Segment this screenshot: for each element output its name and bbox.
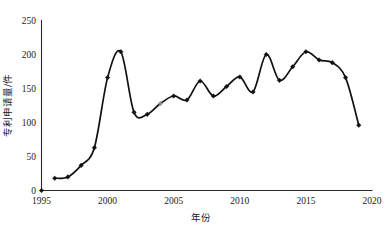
data-point-marker [171,94,176,99]
x-tick-label: 2005 [164,196,183,206]
y-tick-label: 150 [22,84,37,94]
data-series-line [55,51,359,179]
y-axis-tick-labels: 050100150200250 [22,16,37,196]
x-axis-tick-labels: 199520002005201020152020 [32,196,382,206]
x-tick-label: 2000 [98,196,117,206]
line-chart-plot: 050100150200250 199520002005201020152020… [0,0,390,239]
x-tick-label: 2010 [230,196,249,206]
data-point-marker [92,145,97,150]
x-axis-title: 年份 [191,212,211,223]
x-tick-label: 2015 [296,196,315,206]
data-point-marker [356,123,361,128]
data-point-marker [105,75,110,80]
y-tick-label: 0 [31,186,36,196]
x-tick-label: 2020 [363,196,382,206]
x-tick-label: 1995 [32,196,51,206]
y-axis-title: 专利申请量/件 [2,74,13,137]
y-tick-label: 50 [27,152,37,162]
y-tick-label: 100 [22,118,37,128]
chart-container: 050100150200250 199520002005201020152020… [0,0,390,239]
y-tick-label: 200 [22,50,37,60]
y-tick-label: 250 [22,16,37,26]
axis-origin-marker [39,188,44,193]
data-point-markers [39,49,361,192]
data-point-marker [52,176,57,181]
